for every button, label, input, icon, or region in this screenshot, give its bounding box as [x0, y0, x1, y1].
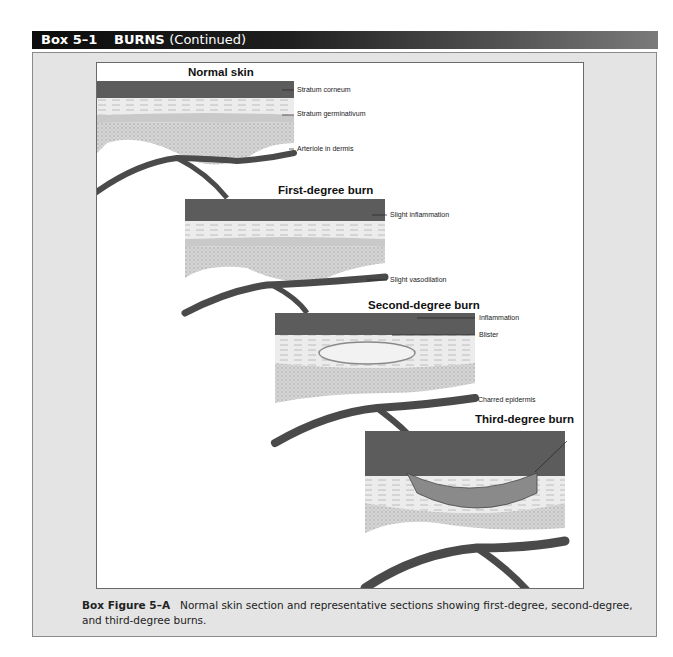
label-slight-inflammation: Slight inflammation — [390, 211, 449, 218]
figure-panel: Normal skin First-degree burn Second-deg… — [96, 62, 584, 589]
label-stratum-corneum: Stratum corneum — [297, 86, 351, 93]
label-inflammation: Inflammation — [479, 314, 519, 321]
box-title-continued: (Continued) — [169, 32, 246, 47]
label-charred-epidermis: Charred epidermis — [478, 396, 536, 403]
box-header-bar: Box 5–1 BURNS (Continued) — [32, 31, 658, 49]
panel-title-first: First-degree burn — [278, 184, 373, 196]
panel-title-second: Second-degree burn — [368, 299, 480, 311]
burns-illustration — [97, 63, 584, 589]
box-title: BURNS (Continued) — [114, 32, 246, 47]
panel-title-normal: Normal skin — [188, 66, 254, 78]
third-degree-section — [365, 431, 565, 589]
label-blister: Blister — [479, 331, 498, 338]
second-degree-section — [275, 313, 475, 443]
label-slight-vasodilation: Slight vasodilation — [390, 276, 446, 283]
box-container: Normal skin First-degree burn Second-deg… — [32, 52, 657, 637]
figure-caption: Box Figure 5–A Normal skin section and r… — [82, 598, 642, 628]
box-number: Box 5–1 — [41, 32, 97, 47]
first-degree-section — [185, 199, 385, 313]
label-stratum-germinativum: Stratum germinativum — [297, 110, 365, 117]
panel-title-third: Third-degree burn — [475, 413, 574, 425]
normal-skin-section — [97, 81, 294, 198]
label-arteriole: Arteriole in dermis — [297, 145, 353, 152]
caption-label: Box Figure 5–A — [82, 599, 170, 611]
